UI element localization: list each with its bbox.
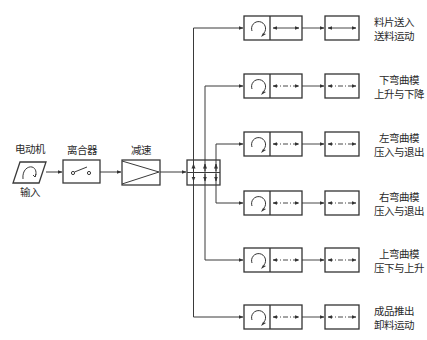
output-row — [244, 74, 359, 98]
reducer-label: 减速 — [131, 144, 151, 157]
clutch-block — [63, 160, 100, 183]
output-row — [244, 16, 359, 40]
output-label-4: 右弯曲模压入与退出 — [374, 190, 424, 218]
amplifier-triangle-icon — [122, 161, 159, 184]
motor-block — [13, 162, 46, 183]
rotation-icon — [252, 22, 266, 33]
output-label-5: 上弯曲模压下与上升 — [374, 247, 424, 275]
switch-icon — [71, 167, 90, 175]
output-row — [244, 132, 359, 156]
output-row — [244, 248, 359, 272]
output-row — [244, 191, 359, 215]
rotation-icon — [252, 197, 266, 208]
motor-sublabel: 输入 — [20, 186, 40, 199]
rotation-icon — [252, 311, 266, 322]
output-label-2: 下弯曲模上升与下降 — [374, 73, 424, 101]
rotation-icon — [252, 80, 266, 91]
output-row — [244, 305, 359, 329]
clutch-label: 离合器 — [67, 144, 97, 157]
distributor-block — [187, 160, 220, 185]
reducer-block — [122, 160, 160, 185]
motor-rotation-icon — [23, 167, 36, 179]
rotation-icon — [252, 254, 266, 265]
transmission-diagram — [0, 0, 427, 340]
output-label-1: 料片送入送料运动 — [374, 15, 414, 43]
motor-label: 电动机 — [15, 143, 45, 156]
output-label-3: 左弯曲模压入与退出 — [374, 131, 424, 159]
rotation-icon — [252, 138, 266, 149]
output-label-6: 成品推出卸料运动 — [374, 304, 414, 332]
